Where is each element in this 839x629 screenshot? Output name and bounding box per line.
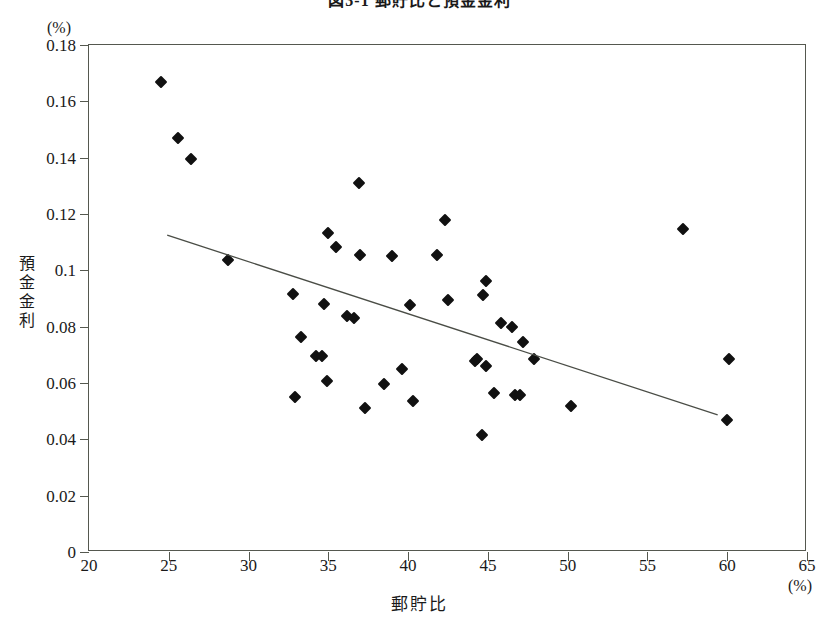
data-point (430, 248, 443, 261)
data-point (403, 298, 416, 311)
x-tick-label-5: 45 (479, 557, 496, 574)
y-tick-3 (80, 383, 89, 384)
y-tick-4 (80, 327, 89, 328)
data-point (407, 394, 420, 407)
y-axis-title-char-3: 利 (16, 312, 38, 331)
data-point (221, 254, 234, 267)
data-point (676, 223, 689, 236)
data-point (330, 240, 343, 253)
y-tick-label-1: 0.02 (46, 487, 76, 504)
y-tick-8 (80, 101, 89, 102)
y-axis-title-char-0: 預 (16, 255, 38, 274)
x-tick-label-9: 65 (799, 557, 816, 574)
y-tick-label-4: 0.08 (46, 318, 76, 335)
data-point (154, 75, 167, 88)
data-point (564, 400, 577, 413)
data-point (378, 377, 391, 390)
y-tick-label-6: 0.12 (46, 206, 76, 223)
data-point (480, 359, 493, 372)
data-point (354, 248, 367, 261)
y-tick-9 (80, 45, 89, 46)
data-point (322, 226, 335, 239)
y-axis-title: 預金金利 (16, 255, 38, 331)
x-tick-label-8: 60 (719, 557, 736, 574)
x-tick-label-4: 40 (400, 557, 417, 574)
y-tick-5 (80, 270, 89, 271)
x-tick-label-6: 50 (559, 557, 576, 574)
x-tick-label-1: 25 (160, 557, 177, 574)
data-point (352, 177, 365, 190)
data-point (288, 390, 301, 403)
data-point (494, 317, 507, 330)
y-axis-unit-label: (%) (47, 20, 71, 36)
data-point (477, 288, 490, 301)
data-point (528, 353, 541, 366)
data-point (317, 298, 330, 311)
data-point (721, 413, 734, 426)
data-point (488, 387, 501, 400)
chart-title: 図3-1 郵貯比と預金金利 (0, 0, 839, 11)
y-tick-label-8: 0.16 (46, 93, 76, 110)
y-axis-title-char-2: 金 (16, 293, 38, 312)
trend-line-segment (167, 235, 717, 415)
x-tick-label-0: 20 (81, 557, 98, 574)
data-point (395, 363, 408, 376)
data-point (295, 331, 308, 344)
data-point (386, 250, 399, 263)
y-tick-label-7: 0.14 (46, 149, 76, 166)
x-tick-label-3: 35 (320, 557, 337, 574)
data-point (475, 428, 488, 441)
y-tick-label-2: 0.04 (46, 431, 76, 448)
data-point (517, 336, 530, 349)
y-tick-2 (80, 439, 89, 440)
data-point (320, 375, 333, 388)
data-point (722, 353, 735, 366)
data-point (480, 274, 493, 287)
y-tick-6 (80, 214, 89, 215)
data-point (442, 294, 455, 307)
scatter-plot-figure: 図3-1 郵貯比と預金金利 (%) (%) 預金金利 郵貯比 00.020.04… (0, 0, 839, 629)
y-axis-title-char-1: 金 (16, 274, 38, 293)
x-axis-title: 郵貯比 (0, 590, 839, 615)
y-tick-7 (80, 158, 89, 159)
y-tick-label-0: 0 (68, 544, 77, 561)
y-tick-label-5: 0.1 (55, 262, 76, 279)
y-tick-0 (80, 552, 89, 553)
y-tick-label-3: 0.06 (46, 375, 76, 392)
x-tick-label-2: 30 (240, 557, 257, 574)
data-point (359, 401, 372, 414)
data-point (185, 153, 198, 166)
plot-area: 00.020.040.060.080.10.120.140.160.18 202… (88, 44, 806, 551)
data-point (172, 132, 185, 145)
x-tick-label-7: 55 (639, 557, 656, 574)
data-point (287, 288, 300, 301)
y-tick-1 (80, 496, 89, 497)
y-tick-label-9: 0.18 (46, 37, 76, 54)
data-point (438, 214, 451, 227)
